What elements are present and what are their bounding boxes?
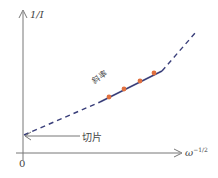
- data-point: [152, 71, 157, 76]
- x-axis-label-base: ω: [185, 147, 193, 158]
- data-point: [138, 79, 143, 84]
- data-point: [107, 95, 112, 100]
- intercept-label: 切片: [82, 129, 102, 144]
- y-axis-label: 1/I: [30, 9, 44, 20]
- data-point: [122, 87, 127, 92]
- x-axis-label: ω−1/2: [185, 146, 208, 158]
- fit-line-upper-dashed: [162, 32, 196, 71]
- x-axis-label-exponent: −1/2: [193, 146, 208, 153]
- origin-label: 0: [19, 158, 25, 169]
